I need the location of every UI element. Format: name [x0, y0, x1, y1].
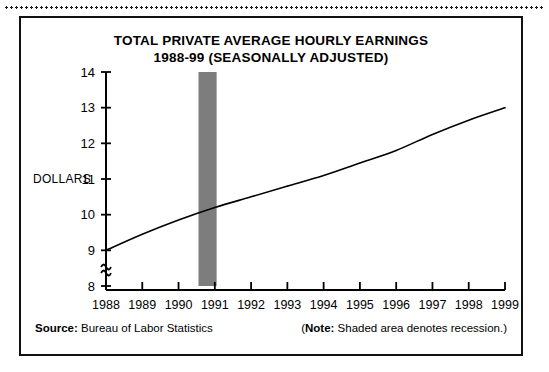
- x-tick-label: 1990: [165, 298, 193, 312]
- x-tick-label: 1992: [237, 298, 265, 312]
- note-label: Note:: [305, 322, 334, 334]
- line-series-earnings: [106, 108, 505, 251]
- note-value: Shaded area denotes recession.): [338, 322, 507, 334]
- shaded-region-recession: [198, 72, 216, 286]
- y-tick-label: 9: [88, 243, 95, 258]
- x-tick-label: 1991: [201, 298, 229, 312]
- x-tick-label: 1995: [346, 298, 374, 312]
- y-tick-label: 13: [81, 100, 95, 115]
- x-tick-label: 1989: [128, 298, 156, 312]
- x-tick-label: 1996: [382, 298, 410, 312]
- recession-shaded-band: [198, 72, 216, 286]
- y-tick-label: 10: [81, 207, 95, 222]
- x-tick-label: 1999: [491, 298, 519, 312]
- x-tick-label: 1993: [273, 298, 301, 312]
- chart-card: TOTAL PRIVATE AVERAGE HOURLY EARNINGS 19…: [19, 16, 523, 356]
- source-value: Bureau of Labor Statistics: [81, 322, 213, 334]
- chart-svg: 891011121314 198819891990199119921993199…: [21, 18, 525, 358]
- source-note: Source: Bureau of Labor Statistics: [35, 322, 213, 334]
- top-dotted-divider: [4, 6, 545, 9]
- chart-page: TOTAL PRIVATE AVERAGE HOURLY EARNINGS 19…: [0, 0, 549, 372]
- chart-footer: Source: Bureau of Labor Statistics (Note…: [21, 322, 521, 340]
- x-tick-label: 1998: [455, 298, 483, 312]
- recession-note: (Note: Shaded area denotes recession.): [301, 322, 507, 334]
- x-tick-label: 1988: [92, 298, 120, 312]
- y-tick-label: 14: [81, 65, 95, 80]
- y-tick-label: 8: [88, 279, 95, 294]
- y-tick-label: 12: [81, 136, 95, 151]
- x-axis-ticks: 1988198919901991199219931994199519961997…: [92, 282, 519, 312]
- x-tick-label: 1997: [419, 298, 447, 312]
- plot-area: DOLLARS 891011121314 1988198919901991199: [21, 18, 525, 358]
- y-tick-label: 11: [82, 172, 96, 187]
- x-tick-label: 1994: [310, 298, 338, 312]
- source-label: Source:: [35, 322, 78, 334]
